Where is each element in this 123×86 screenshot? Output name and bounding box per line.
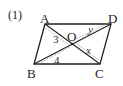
segment-label-od: y [88, 24, 93, 35]
vertex-label-c: C [95, 67, 104, 80]
problem-number: (1) [8, 9, 22, 21]
segment-label-bo: 4 [54, 55, 60, 66]
vertex-label-o: O [67, 30, 76, 43]
vertex-label-b: B [27, 67, 36, 80]
vertex-label-a: A [40, 12, 49, 25]
parallelogram-figure: (1) A D B C O 3 y x 4 [0, 0, 123, 86]
segment-label-ao: 3 [53, 34, 59, 45]
dotted-guide-bo [36, 47, 70, 65]
segment-label-oc: x [86, 45, 91, 56]
vertex-label-d: D [108, 12, 117, 25]
